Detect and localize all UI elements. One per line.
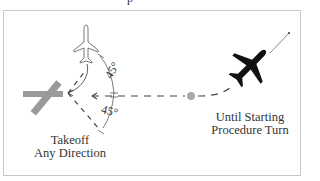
procedure-turn-label-line2: Procedure Turn: [200, 124, 300, 137]
outbound-line: [270, 33, 289, 53]
sector-45-lines: [68, 70, 100, 130]
outline-aircraft-icon: [74, 25, 98, 63]
takeoff-turn-path: [68, 64, 88, 96]
runway-icon: [23, 80, 63, 115]
fix-dot: [187, 92, 195, 100]
takeoff-label-line2: Any Direction: [20, 147, 120, 160]
procedure-turn-label: Until Starting Procedure Turn: [200, 111, 300, 137]
black-aircraft-icon: [221, 36, 280, 95]
takeoff-label: Takeoff Any Direction: [20, 134, 120, 160]
